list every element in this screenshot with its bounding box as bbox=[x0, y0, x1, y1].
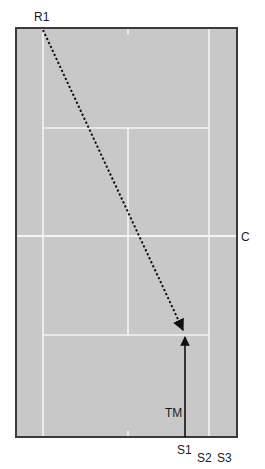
label-receiver-r1: R1 bbox=[34, 10, 50, 24]
court-surface bbox=[16, 28, 237, 437]
label-server-s2: S2 bbox=[197, 451, 212, 465]
tennis-court-diagram: R1 C TM S1 S2 S3 bbox=[0, 0, 265, 469]
label-center-c: C bbox=[241, 230, 250, 244]
label-target-marker-tm: TM bbox=[165, 406, 182, 420]
label-server-s1: S1 bbox=[177, 443, 192, 457]
label-server-s3: S3 bbox=[217, 451, 232, 465]
